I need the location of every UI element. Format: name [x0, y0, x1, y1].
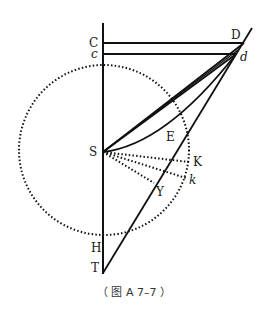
label-H: H [91, 241, 101, 255]
line-TD [103, 28, 252, 273]
dotted-SY [103, 152, 154, 183]
label-Y: Y [155, 185, 165, 199]
label-c: c [91, 47, 98, 61]
label-d: d [240, 50, 248, 64]
label-k: k [189, 173, 196, 187]
figure-caption: （ 图 A 7–7 ） [97, 286, 171, 299]
label-D: D [231, 28, 241, 42]
label-T: T [91, 261, 99, 275]
geometry-diagram: C c D d S E K k Y H T （ 图 A 7–7 ） [0, 0, 269, 316]
label-K: K [193, 155, 203, 169]
label-S: S [89, 145, 97, 159]
label-E: E [166, 130, 175, 144]
